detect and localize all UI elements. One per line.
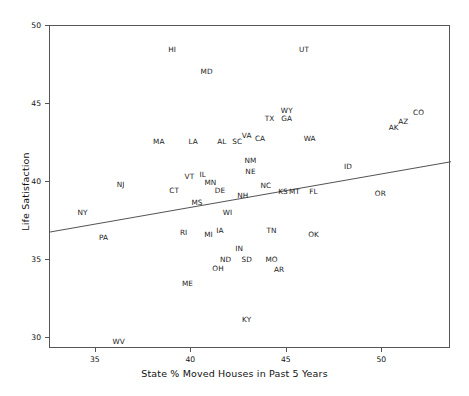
y-tick-label-50: 50 [25,21,41,30]
trend-line [50,26,451,349]
data-point-sd: SD [241,254,251,263]
data-point-mi: MI [204,229,213,238]
data-point-de: DE [215,185,225,194]
x-tick-label-40: 40 [185,355,195,364]
data-point-tx: TX [265,114,275,123]
data-point-la: LA [188,137,197,146]
data-point-ut: UT [299,45,309,54]
data-point-ky: KY [242,315,251,324]
data-point-ne: NE [245,167,255,176]
data-point-ak: AK [389,123,399,132]
data-point-pa: PA [99,232,108,241]
scatter-plot-figure: HIUTMDWYGATXCOAZAKVACAWAMALAALSCNMNEIDVT… [0,0,469,396]
plot-area: HIUTMDWYGATXCOAZAKVACAWAMALAALSCNMNEIDVT… [49,25,450,348]
data-point-nd: ND [220,254,231,263]
data-point-nh: NH [237,190,248,199]
data-point-ri: RI [180,227,187,236]
x-tick-mark-50 [381,348,382,352]
data-point-mo: MO [265,254,277,263]
data-point-vt: VT [185,171,195,180]
data-point-wi: WI [223,207,233,216]
data-point-me: ME [182,279,193,288]
data-point-sc: SC [232,137,242,146]
data-point-az: AZ [398,117,408,126]
data-point-mt: MT [289,187,300,196]
x-tick-label-35: 35 [90,355,100,364]
data-point-hi: HI [168,45,176,54]
data-point-id: ID [344,162,352,171]
y-tick-label-30: 30 [25,333,41,342]
x-tick-label-50: 50 [376,355,386,364]
data-point-wv: WV [113,337,125,346]
data-point-ok: OK [308,229,319,238]
y-tick-label-45: 45 [25,99,41,108]
data-point-ms: MS [191,198,202,207]
y-tick-mark-45 [45,103,49,104]
data-point-ar: AR [274,265,284,274]
x-tick-mark-45 [286,348,287,352]
y-tick-mark-40 [45,181,49,182]
y-tick-mark-30 [45,337,49,338]
data-point-al: AL [217,137,226,146]
data-point-nj: NJ [117,179,125,188]
x-tick-mark-35 [95,348,96,352]
data-point-ma: MA [153,137,165,146]
y-axis-title: Life Satisfaction [20,112,31,272]
data-point-or: OR [375,188,386,197]
data-point-fl: FL [309,187,317,196]
data-point-ks: KS [278,187,288,196]
data-point-ct: CT [169,185,179,194]
x-tick-label-45: 45 [281,355,291,364]
data-point-ny: NY [77,207,87,216]
data-point-ga: GA [281,114,292,123]
data-point-nm: NM [245,156,257,165]
data-point-tn: TN [266,226,276,235]
x-axis-title: State % Moved Houses in Past 5 Years [0,368,469,379]
y-tick-mark-50 [45,25,49,26]
data-point-co: CO [413,107,424,116]
x-tick-mark-40 [190,348,191,352]
data-point-va: VA [242,131,252,140]
data-point-nc: NC [260,181,271,190]
data-point-oh: OH [212,263,223,272]
data-point-md: MD [201,67,213,76]
y-tick-mark-35 [45,259,49,260]
data-point-ia: IA [216,226,223,235]
data-point-wa: WA [304,134,316,143]
data-point-in: IN [235,243,243,252]
data-point-ca: CA [255,134,265,143]
